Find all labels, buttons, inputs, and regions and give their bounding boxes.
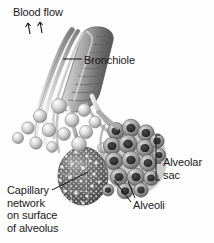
anatomy-figure: Blood flow Bronchiole Alveolar sac Alveo… (0, 0, 214, 243)
blood-flow-arrows (26, 22, 43, 34)
label-blood-flow: Blood flow (13, 6, 63, 19)
label-alveoli: Alveoli (133, 199, 165, 212)
label-capillary-network: Capillary network on surface of alveolus (7, 184, 59, 234)
alveolar-sac-cluster (101, 119, 167, 199)
label-bronchiole: Bronchiole (84, 54, 135, 67)
label-alveolar-sac: Alveolar sac (163, 156, 202, 181)
